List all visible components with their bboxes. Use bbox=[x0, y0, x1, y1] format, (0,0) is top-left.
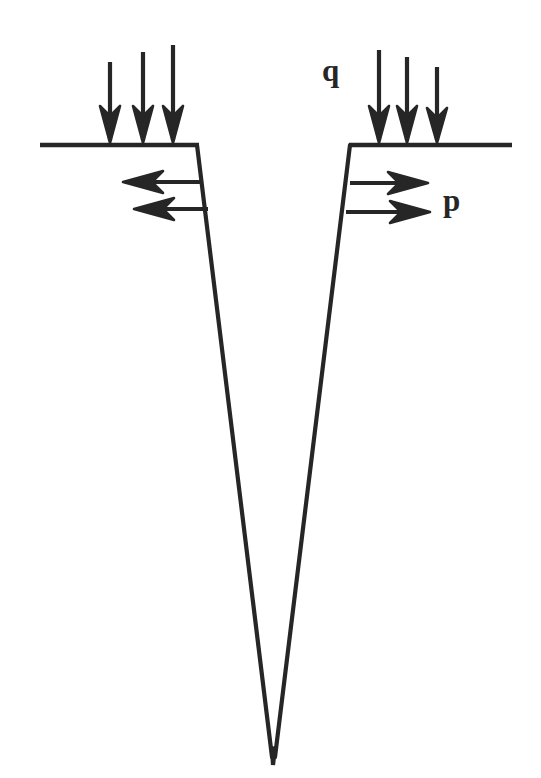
left-arrow bbox=[123, 171, 203, 193]
vertical-load-arrows-right bbox=[369, 50, 447, 143]
lateral-pressure-arrows-right bbox=[346, 172, 430, 223]
load-label-q: q bbox=[322, 55, 339, 86]
down-arrow bbox=[397, 57, 417, 143]
down-arrow bbox=[133, 52, 153, 143]
down-arrow bbox=[369, 50, 389, 143]
wedge-left-wall bbox=[197, 145, 272, 757]
right-arrow bbox=[350, 172, 428, 194]
down-arrow bbox=[163, 45, 183, 143]
wedge-right-wall bbox=[275, 145, 350, 757]
right-arrow bbox=[346, 201, 430, 223]
diagram-canvas bbox=[0, 0, 541, 778]
wedge-load-diagram: q p bbox=[0, 0, 541, 778]
load-label-p: p bbox=[443, 185, 460, 216]
vertical-load-arrows-left bbox=[100, 45, 183, 143]
left-arrow bbox=[134, 198, 208, 220]
lateral-pressure-arrows-left bbox=[123, 171, 208, 220]
wedge-outline bbox=[197, 145, 350, 765]
wedge-apex bbox=[272, 748, 275, 765]
down-arrow bbox=[427, 67, 447, 143]
down-arrow bbox=[100, 62, 120, 143]
